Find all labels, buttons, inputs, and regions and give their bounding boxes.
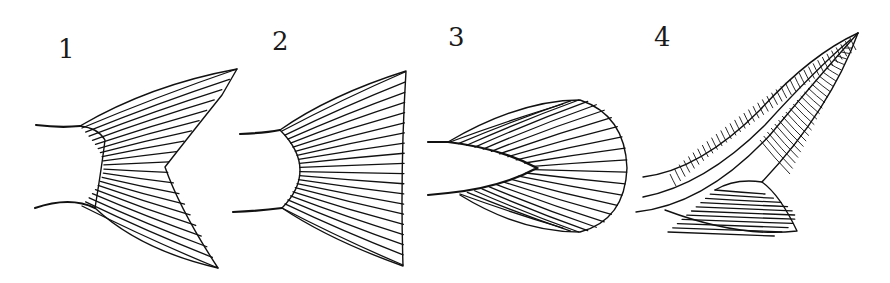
fin-ray	[533, 160, 627, 166]
hatch-line	[721, 130, 727, 142]
fin-ray	[692, 211, 795, 215]
hatch-line	[758, 103, 764, 115]
hatch-line	[776, 89, 782, 101]
fin-ray	[526, 173, 625, 184]
panel-2-truncate-tail: 2	[233, 26, 406, 266]
fin-ray	[89, 198, 207, 247]
hatch-line	[670, 174, 676, 186]
fin-ray	[710, 194, 773, 198]
fin-ray	[696, 207, 792, 211]
hatch-line	[795, 76, 801, 88]
panel-3-label: 3	[448, 22, 465, 52]
fin-ray	[300, 172, 404, 174]
fin-ray	[687, 215, 795, 219]
fin-ray	[706, 198, 781, 202]
fin-ray	[104, 162, 169, 165]
fin-ray	[299, 153, 404, 163]
hatch-line	[771, 128, 798, 158]
fin-ray	[98, 185, 190, 214]
panel-4-label: 4	[654, 22, 671, 52]
hatch-line	[815, 80, 830, 92]
hatch-line	[799, 73, 805, 85]
fin-ray	[460, 194, 563, 228]
panel-1-peduncle-bottom	[35, 202, 95, 208]
fin-ray	[104, 169, 168, 172]
fish-tail-diagram: 1 2 3 4	[0, 0, 890, 283]
fin-ray	[295, 123, 404, 151]
hatch-line	[834, 60, 844, 64]
fin-ray	[82, 69, 237, 128]
panel-1-peduncle-top	[36, 125, 80, 127]
panel-3-rounded-tail: 3	[428, 22, 627, 232]
fin-ray	[701, 203, 788, 207]
panel-1-label: 1	[58, 34, 75, 64]
fin-ray	[98, 121, 199, 149]
panel-3-fin-rays	[450, 100, 627, 232]
hatch-line	[775, 124, 801, 152]
fin-ray	[282, 208, 403, 265]
fin-ray	[103, 152, 176, 161]
fin-ray	[533, 170, 626, 172]
hatch-line	[675, 169, 681, 181]
fin-ray	[103, 173, 173, 183]
panel-2-peduncle-top	[240, 130, 280, 134]
fin-ray	[668, 232, 774, 236]
fin-ray	[715, 190, 765, 194]
hatch-line	[785, 83, 791, 95]
panel-1-fin-outline	[80, 69, 237, 268]
panel-4-hatching	[668, 38, 856, 236]
hatch-line	[812, 84, 828, 97]
hatch-line	[725, 127, 731, 139]
fin-ray	[282, 72, 405, 131]
hatch-line	[781, 86, 787, 98]
fin-ray	[458, 101, 570, 144]
hatch-line	[808, 88, 825, 103]
panel-4-heterocercal-tail: 4	[636, 22, 858, 236]
panel-1-fin-rays	[82, 69, 237, 268]
fin-ray	[300, 163, 404, 167]
panel-1-forked-tail: 1	[35, 34, 237, 268]
hatch-line	[822, 57, 828, 69]
hatch-line	[830, 64, 841, 70]
fin-ray	[293, 192, 403, 225]
fin-ray	[677, 224, 788, 228]
panel-2-label: 2	[272, 26, 289, 56]
fin-ray	[89, 90, 222, 137]
fin-ray	[475, 101, 588, 147]
hatch-line	[790, 80, 796, 92]
panel-2-peduncle-bottom	[233, 208, 282, 212]
hatch-line	[801, 96, 820, 114]
hatch-line	[827, 68, 839, 75]
hatch-line	[818, 60, 824, 72]
hatch-line	[804, 92, 822, 108]
hatch-line	[823, 72, 836, 81]
